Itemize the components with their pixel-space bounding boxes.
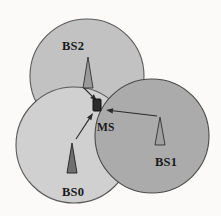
cellular-coverage-diagram: BS2 BS0 BS1 MS [0,0,221,216]
cell-label-bs0: BS0 [62,185,84,199]
mobile-station-marker [93,99,101,111]
cell-label-bs1: BS1 [155,155,177,169]
diagram-canvas: BS2 BS0 BS1 MS [0,0,221,216]
coverage-circle-bs1 [95,79,209,193]
mobile-station-label: MS [97,121,115,133]
cell-label-bs2: BS2 [62,39,84,53]
